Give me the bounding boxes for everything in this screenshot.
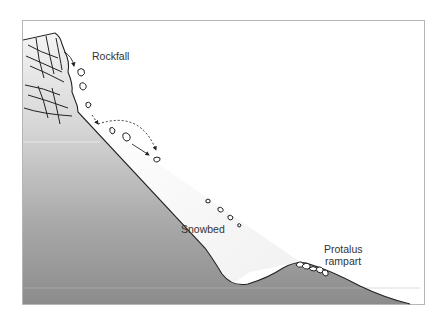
label-snowbed: Snowbed xyxy=(181,223,225,235)
label-protalus-line1: Protalus xyxy=(324,243,363,255)
protalus-rampart-diagram: Rockfall Snowbed Protalus rampart xyxy=(0,0,443,336)
label-rockfall: Rockfall xyxy=(92,50,129,62)
label-protalus-line2: rampart xyxy=(325,255,361,267)
